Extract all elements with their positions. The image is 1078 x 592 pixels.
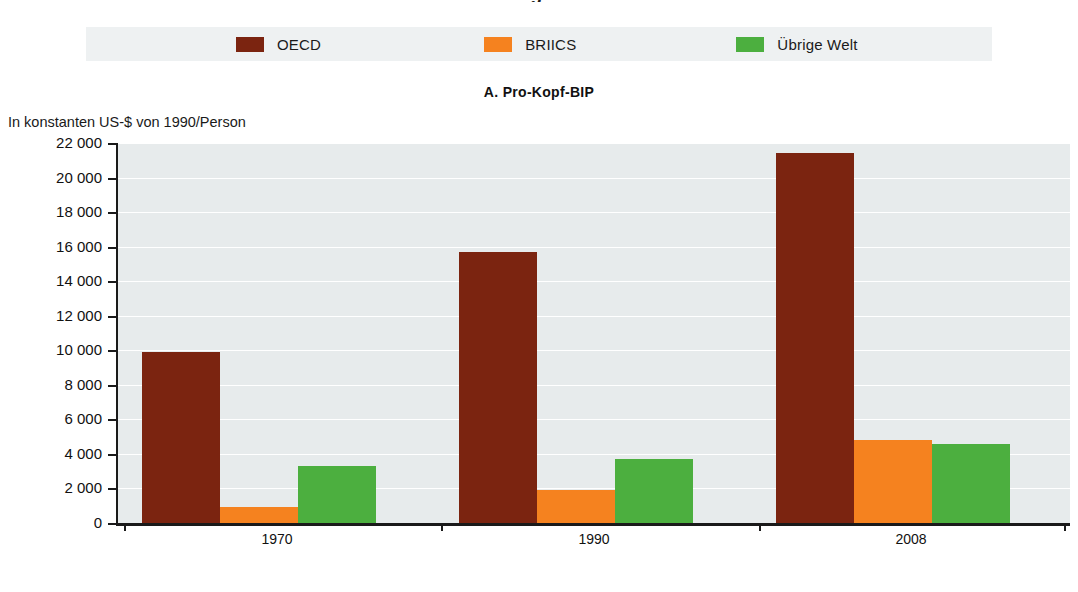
- y-axis-tick-label: 0: [0, 514, 102, 531]
- bar-übrige-welt-1970: [298, 466, 376, 523]
- y-axis-tick: [108, 454, 116, 456]
- x-axis-label-1990: 1990: [534, 531, 654, 547]
- x-axis-label-2008: 2008: [851, 531, 971, 547]
- y-axis-tick-label: 6 000: [0, 410, 102, 427]
- y-axis-tick: [108, 385, 116, 387]
- y-axis-tick: [108, 316, 116, 318]
- y-axis-tick: [108, 523, 116, 525]
- y-axis-tick: [108, 212, 116, 214]
- bar-oecd-1970: [142, 352, 220, 523]
- bar-chart: 02 0004 0006 0008 00010 00012 00014 0001…: [0, 0, 1078, 592]
- y-axis-tick-label: 14 000: [0, 272, 102, 289]
- y-axis-tick: [108, 350, 116, 352]
- bar-übrige-welt-1990: [615, 459, 693, 523]
- y-axis-tick-label: 4 000: [0, 445, 102, 462]
- y-axis-tick: [108, 488, 116, 490]
- bar-briics-1970: [220, 507, 298, 523]
- y-axis-tick-label: 20 000: [0, 169, 102, 186]
- y-axis-tick: [108, 419, 116, 421]
- y-axis-tick: [108, 281, 116, 283]
- bar-group-1990: [435, 143, 752, 523]
- bar-briics-1990: [537, 490, 615, 523]
- x-axis-tick: [1064, 523, 1066, 531]
- bar-briics-2008: [854, 440, 932, 523]
- bar-group-1970: [118, 143, 435, 523]
- y-axis-tick: [108, 178, 116, 180]
- x-axis-label-1970: 1970: [217, 531, 337, 547]
- y-axis-tick: [108, 247, 116, 249]
- bar-oecd-2008: [776, 153, 854, 523]
- bar-oecd-1990: [459, 252, 537, 523]
- x-axis-line: [116, 523, 1070, 526]
- y-axis-tick-label: 12 000: [0, 307, 102, 324]
- y-axis-tick-label: 2 000: [0, 479, 102, 496]
- y-axis-tick-label: 16 000: [0, 238, 102, 255]
- y-axis-tick-label: 8 000: [0, 376, 102, 393]
- bar-group-2008: [753, 143, 1070, 523]
- x-axis-tick: [759, 523, 761, 531]
- y-axis-tick-label: 10 000: [0, 341, 102, 358]
- bar-übrige-welt-2008: [932, 444, 1010, 523]
- x-axis-tick: [124, 523, 126, 531]
- bars-layer: [118, 143, 1070, 523]
- x-axis-tick: [441, 523, 443, 531]
- y-axis-tick: [108, 143, 116, 145]
- y-axis-tick-label: 18 000: [0, 203, 102, 220]
- y-axis-tick-label: 22 000: [0, 134, 102, 151]
